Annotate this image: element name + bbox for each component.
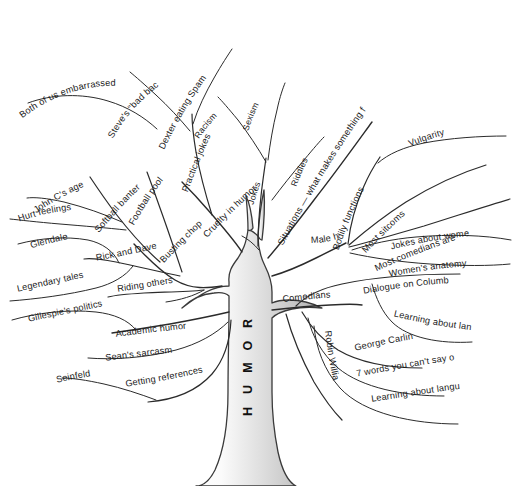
trunk-root-letter: O: [241, 338, 255, 351]
label-most-comedians-are-men: Most comedians are men: [0, 0, 459, 273]
label-george-carlin: George Carlin: [354, 331, 414, 353]
label-gillespies-politics: Gillespie's politics: [27, 298, 103, 323]
trunk-shape: [182, 230, 322, 486]
branch-cruelty-in-humor: [182, 182, 242, 252]
trunk-root-letter: R: [241, 316, 255, 328]
label-legendary-tales: Legendary tales: [16, 270, 85, 294]
trunk-root-letter: H: [241, 404, 255, 416]
label-dialogue-on-columbus: Dialogue on Columbus: [0, 0, 449, 296]
trunk-root-letter: U: [241, 382, 255, 394]
label-academic-humor: Academic humor: [115, 321, 187, 339]
branch-learning-about-language-1: [372, 284, 472, 342]
branch-sexism: [268, 83, 285, 160]
label-getting-references: Getting references: [125, 364, 204, 388]
label-practical-jokes: Practical jokes: [180, 132, 213, 193]
trunk-group: HUMOR: [182, 190, 322, 486]
label-football-pool: Football pool: [127, 175, 165, 227]
label-rick-and-dave: Rick and Dave: [95, 241, 157, 263]
label-vulgarity: Vulgarity: [407, 127, 446, 148]
label-sexism: Sexism: [241, 101, 261, 132]
label-riding-others: Riding others: [117, 275, 174, 294]
branch-vulgarity: [378, 136, 506, 163]
label-seans-sarcasm: Sean's sarcasm: [105, 345, 173, 363]
trunk-root-letter: M: [241, 359, 255, 373]
label-glendale: Glendale: [29, 231, 69, 250]
label-seinfeld: Seinfeld: [55, 368, 91, 384]
label-riddles: Riddles: [289, 156, 310, 188]
humor-tree-diagram: HUMOR: [0, 0, 517, 486]
